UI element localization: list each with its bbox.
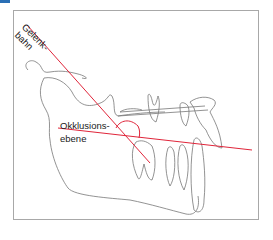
upper-canine-incisor [190,97,222,148]
mandible-lower-border [40,78,198,214]
lower-premolar [166,147,175,186]
upper-premolar [180,103,189,126]
lower-premolar-2 [178,145,188,190]
upper-molar [148,94,159,122]
lower-canine [191,138,205,212]
occlusal-plane-label-2: ebene [60,134,86,144]
condyle-outline [26,61,86,79]
occlusal-plane-label-1: Okklusions- [60,121,110,131]
occlusal-plane-line [58,128,252,150]
